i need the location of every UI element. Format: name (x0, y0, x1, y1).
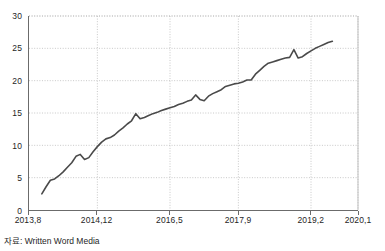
x-axis-tick-label: 2014,12 (71, 216, 123, 225)
x-axis-tick-mark (310, 211, 311, 215)
y-axis-tick-label: 5 (0, 174, 22, 183)
y-axis-tick-label: 15 (0, 109, 22, 118)
x-axis-tick-mark (96, 211, 97, 215)
x-axis-tick-mark (169, 211, 170, 215)
x-axis-tick-label: 2016,5 (143, 216, 195, 225)
y-axis-tick-label: 20 (0, 77, 22, 86)
x-axis-tick-mark (358, 211, 359, 215)
x-axis-tick-label: 2017,9 (212, 216, 264, 225)
y-axis-tick-label: 30 (0, 12, 22, 21)
x-axis-tick-mark (238, 211, 239, 215)
x-axis-tick-label: 2013,8 (2, 216, 54, 225)
y-axis-tick-label: 25 (0, 44, 22, 53)
y-axis-tick-label: 10 (0, 142, 22, 151)
y-axis-tick-label: 0 (0, 207, 22, 216)
series-line (42, 41, 333, 194)
x-axis-tick-mark (28, 211, 29, 215)
line-chart: 051015202530 2013,82014,122016,52017,920… (0, 0, 385, 251)
source-note: 자료: Written Word Media (4, 236, 100, 246)
plot-area (28, 16, 358, 211)
data-series-layer (29, 16, 358, 210)
x-axis-tick-label: 2020,1 (332, 216, 384, 225)
x-axis-tick-label: 2019,2 (285, 216, 337, 225)
